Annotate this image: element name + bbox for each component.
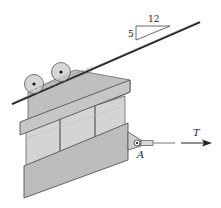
- tension-rod: [141, 141, 175, 146]
- pin-bracket-a: [128, 132, 141, 150]
- force-label-t: T: [193, 127, 201, 138]
- slope-triangle: 12 5: [128, 14, 170, 40]
- diagram-canvas: 12 5: [0, 0, 221, 208]
- cable-car-diagram: 12 5: [0, 0, 221, 208]
- point-label-a: A: [136, 149, 144, 160]
- wheel-right: [52, 63, 71, 82]
- slope-run-label: 12: [148, 14, 159, 24]
- force-arrow-t: T: [181, 127, 212, 147]
- slope-rise-label: 5: [128, 29, 134, 39]
